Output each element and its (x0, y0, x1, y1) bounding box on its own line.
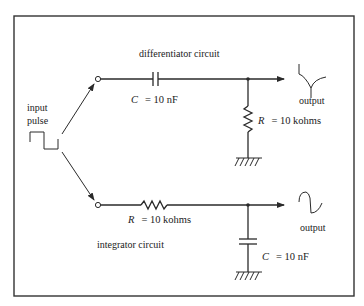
input-label-line1: input (27, 102, 48, 113)
arrow-icon (62, 152, 94, 200)
square-pulse-icon (30, 132, 58, 149)
ground-icon (235, 272, 262, 280)
integrator-title: integrator circuit (97, 239, 164, 250)
resistor-icon (244, 106, 252, 132)
differentiator-resistor-label: R = 10 kohms (257, 110, 321, 127)
differentiator-capacitor-label: C = 10 nF (131, 89, 178, 106)
integrator-input-node (95, 202, 100, 207)
input-label-line2: pulse (27, 115, 49, 126)
capacitor-icon (239, 239, 257, 244)
spike-waveform-icon (299, 64, 326, 98)
capacitor-icon (153, 72, 158, 86)
differentiator-input-node (95, 76, 100, 81)
resistor-icon (141, 201, 167, 209)
differentiator-title: differentiator circuit (139, 48, 220, 59)
integrator-output-label: output (300, 222, 326, 233)
circuit-diagram: input pulse differentiator circuit C = 1… (0, 0, 364, 306)
integrator-capacitor-label: C = 10 nF (262, 246, 309, 263)
differentiator-output-label: output (299, 95, 325, 106)
ground-icon (235, 158, 262, 166)
integrator-resistor-label: R = 10 kohms (127, 209, 191, 226)
ramp-waveform-icon (299, 192, 322, 213)
arrow-icon (62, 84, 94, 134)
